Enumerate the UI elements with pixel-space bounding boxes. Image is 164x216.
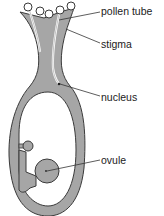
flower-carpel-diagram [0,0,164,216]
pollen-grain-icon [36,7,44,15]
label-nucleus: nucleus [101,91,137,103]
label-pollen-tube: pollen tube [101,5,152,17]
leader-line-stigma [66,29,100,43]
nucleus-dot [58,83,61,86]
pollen-grain-icon [45,10,53,18]
pollen-grain-icon [56,6,64,14]
label-ovule: ovule [101,154,126,166]
pollen-grain-icon [24,3,32,11]
label-stigma: stigma [101,38,132,50]
small-ovule-icon [23,141,33,151]
pollen-grain-icon [67,2,75,10]
ovule-nucleus-dot [45,170,47,172]
